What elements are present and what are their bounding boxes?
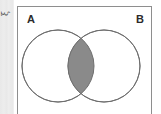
venn-diagram-figure: ξ A B bbox=[0, 0, 161, 114]
universal-set-label: ξ bbox=[1, 11, 10, 16]
set-a-label: A bbox=[27, 14, 35, 25]
venn-circles-svg bbox=[17, 6, 153, 114]
set-b-label: B bbox=[136, 14, 144, 25]
page-margin-band bbox=[0, 0, 14, 114]
